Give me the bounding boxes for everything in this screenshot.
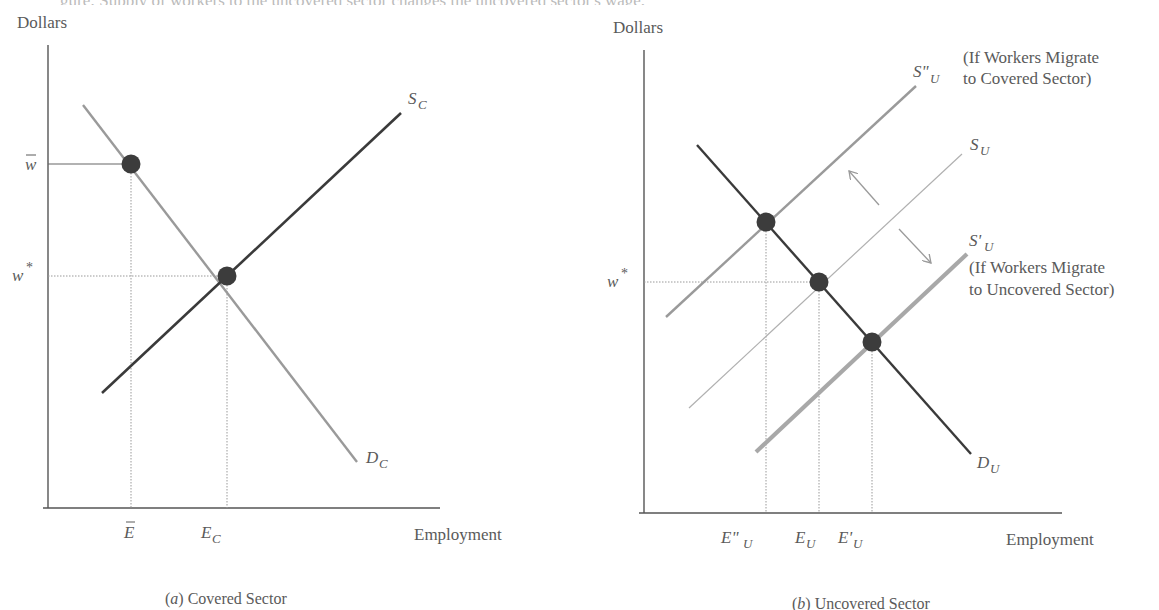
svg-text:(If Workers Migrate: (If Workers Migrate bbox=[963, 48, 1099, 67]
shift-right-arrow bbox=[899, 229, 931, 263]
e1-label: E' U bbox=[837, 528, 864, 551]
s-label: S U bbox=[970, 135, 991, 158]
equilibrium-point-covered bbox=[218, 267, 237, 286]
svg-text:U: U bbox=[853, 536, 864, 551]
svg-text:D: D bbox=[976, 453, 990, 472]
demand-curve-uncovered bbox=[697, 145, 971, 454]
svg-text:S: S bbox=[970, 135, 979, 154]
svg-text:S: S bbox=[408, 89, 417, 108]
svg-text:w: w bbox=[12, 266, 24, 285]
svg-text:D: D bbox=[365, 448, 379, 467]
dc-label: D C bbox=[365, 448, 388, 471]
svg-text:U: U bbox=[990, 461, 1001, 476]
svg-text:E": E" bbox=[720, 528, 739, 547]
y-axis-label: Dollars bbox=[613, 18, 663, 37]
minimum-wage-point bbox=[122, 155, 141, 174]
svg-text:U: U bbox=[743, 536, 754, 551]
figure: Dollars Employment w w * E E C S C D C (… bbox=[0, 0, 1159, 610]
wbar-label: w bbox=[25, 155, 37, 174]
shift-left-arrow bbox=[849, 171, 879, 205]
svg-text:*: * bbox=[621, 266, 628, 281]
x-axis-label: Employment bbox=[1006, 530, 1094, 549]
svg-text:S': S' bbox=[969, 231, 982, 250]
svg-text:U: U bbox=[980, 143, 991, 158]
svg-text:E: E bbox=[200, 523, 212, 542]
y-axis-label: Dollars bbox=[17, 13, 67, 32]
s2-label: S" U bbox=[913, 62, 941, 86]
svg-text:w: w bbox=[25, 155, 37, 174]
wstar-label: w * bbox=[12, 260, 33, 285]
ec-label: E C bbox=[200, 523, 221, 546]
s2-annotation: (If Workers Migrate to Covered Sector) bbox=[963, 48, 1099, 88]
panel-uncovered-sector: Dollars Employment w * E" U E U E' U S" … bbox=[607, 18, 1114, 610]
panel-covered-sector: Dollars Employment w w * E E C S C D C (… bbox=[12, 13, 502, 608]
svg-text:U: U bbox=[806, 536, 817, 551]
svg-text:S": S" bbox=[913, 62, 930, 81]
svg-text:C: C bbox=[418, 97, 427, 112]
du-label: D U bbox=[976, 453, 1001, 476]
sc-label: S C bbox=[408, 89, 427, 112]
svg-text:to Covered Sector): to Covered Sector) bbox=[963, 69, 1091, 88]
supply-curve-shift-right bbox=[756, 254, 967, 452]
e-label: E U bbox=[794, 528, 817, 551]
e2-label: E" U bbox=[720, 528, 754, 551]
svg-text:E: E bbox=[123, 523, 135, 542]
svg-text:C: C bbox=[212, 531, 221, 546]
svg-text:U: U bbox=[984, 239, 995, 254]
x-axis-label: Employment bbox=[414, 525, 502, 544]
s1-annotation: (If Workers Migrate to Uncovered Sector) bbox=[969, 258, 1114, 299]
svg-text:*: * bbox=[26, 260, 33, 275]
supply-curve-covered bbox=[102, 113, 401, 393]
svg-text:C: C bbox=[379, 456, 388, 471]
wstar-label: w * bbox=[607, 266, 628, 291]
svg-text:E': E' bbox=[837, 528, 852, 547]
panel-a-title: (a) Covered Sector bbox=[165, 590, 287, 608]
svg-text:U: U bbox=[930, 71, 941, 86]
panel-b-title: (b) Uncovered Sector bbox=[792, 595, 930, 610]
equilibrium-covered-migration bbox=[757, 213, 776, 232]
s1-label: S' U bbox=[969, 231, 995, 254]
svg-text:E: E bbox=[794, 528, 806, 547]
svg-text:w: w bbox=[607, 272, 619, 291]
svg-text:(If Workers Migrate: (If Workers Migrate bbox=[969, 258, 1105, 277]
ebar-label: E bbox=[123, 522, 135, 542]
equilibrium-uncovered-migration bbox=[863, 333, 882, 352]
svg-text:to Uncovered Sector): to Uncovered Sector) bbox=[969, 280, 1114, 299]
equilibrium-original bbox=[810, 273, 829, 292]
